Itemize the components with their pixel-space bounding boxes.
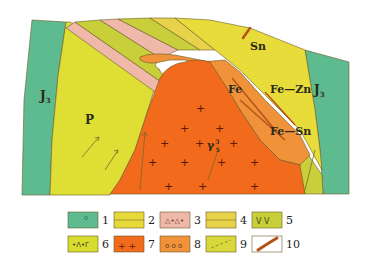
svg-text:9: 9 [240, 238, 247, 251]
svg-text:+: + [160, 137, 169, 150]
svg-text:+: + [180, 156, 189, 169]
legend-item-2: 2 [114, 212, 155, 228]
legend-item-5: V V 5 [252, 212, 293, 228]
svg-text:o o o: o o o [165, 242, 182, 250]
svg-text:1: 1 [102, 214, 109, 227]
label-gamma: γ35 [207, 138, 220, 153]
legend-item-10: 10 [252, 236, 300, 252]
legend-item-9: 9 [206, 236, 247, 252]
legend-item-3: △•△• 3 [160, 212, 201, 228]
svg-text:2: 2 [148, 214, 155, 227]
label-fe: Fe [228, 83, 242, 96]
svg-text:4: 4 [240, 214, 247, 227]
svg-text:+: + [164, 180, 173, 193]
svg-text:+: + [250, 180, 259, 193]
svg-text:+: + [250, 156, 259, 169]
legend-item-7: + + 7 [114, 236, 155, 252]
svg-text:7: 7 [148, 238, 155, 251]
label-fe-zn: Fe—Zn [270, 83, 311, 96]
svg-text:+ +: + + [118, 241, 136, 251]
legend-item-6: •Λ•Γ 6 [68, 236, 109, 252]
label-fe-sn: Fe—Sn [270, 125, 311, 138]
legend-item-8: o o o 8 [160, 236, 201, 252]
svg-text:•Λ•Γ: •Λ•Γ [72, 241, 89, 249]
svg-text:5: 5 [286, 214, 293, 227]
svg-text:+: + [217, 156, 226, 169]
svg-text:6: 6 [102, 238, 109, 251]
svg-text:8: 8 [194, 238, 201, 251]
svg-text:+: + [180, 122, 189, 135]
label-sn: Sn [250, 40, 266, 53]
svg-text:+: + [196, 102, 205, 115]
svg-text:+: + [198, 180, 207, 193]
svg-text:+: + [215, 122, 224, 135]
svg-text:+: + [195, 137, 204, 150]
svg-text:3: 3 [194, 214, 201, 227]
legend-item-1: 1 [68, 212, 109, 228]
legend-item-4: 4 [206, 212, 247, 228]
svg-text:△•△•: △•△• [165, 217, 184, 225]
svg-text:V V: V V [256, 217, 270, 226]
geological-map: +++ +++ ++++ +++ J3 P Sn Fe Fe—Zn J3 Fe—… [0, 0, 369, 269]
svg-text:10: 10 [286, 238, 300, 251]
legend: 1 2 △•△• 3 4 V V 5 •Λ•Γ 6 [68, 212, 300, 252]
svg-text:+: + [148, 156, 157, 169]
svg-text:+: + [229, 137, 238, 150]
label-p: P [85, 113, 94, 127]
